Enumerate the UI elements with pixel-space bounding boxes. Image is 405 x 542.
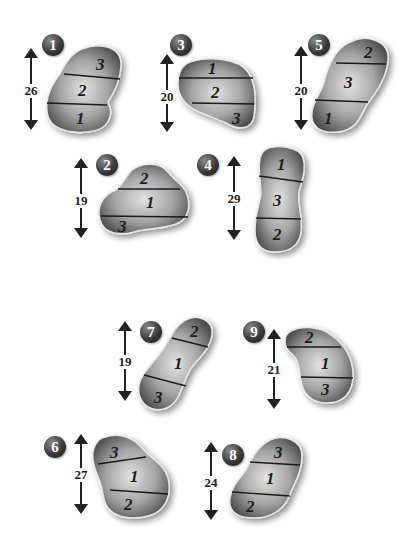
height-value: 24	[198, 476, 224, 490]
bean-shape: 2 1 3	[98, 164, 190, 236]
svg-text:2: 2	[189, 322, 199, 341]
arrow-down-icon	[24, 120, 38, 130]
bean-shape: 3 1 2	[228, 436, 304, 520]
height-value: 19	[68, 194, 94, 208]
svg-text:1: 1	[266, 469, 275, 488]
svg-text:2: 2	[77, 81, 87, 100]
height-value: 21	[261, 363, 287, 377]
height-value: 29	[221, 192, 247, 206]
bean-shape: 1 2 3	[176, 58, 256, 130]
arrow-down-icon	[160, 122, 174, 132]
svg-text:2: 2	[304, 328, 314, 347]
svg-text:1: 1	[277, 155, 286, 174]
height-arrow: 27	[74, 434, 88, 514]
svg-text:1: 1	[146, 193, 155, 212]
arrow-down-icon	[204, 510, 218, 520]
bean-shape: 2 3 1	[310, 38, 390, 138]
height-value: 19	[112, 355, 138, 369]
height-arrow: 24	[204, 442, 218, 520]
svg-text:1: 1	[324, 109, 333, 128]
svg-text:2: 2	[123, 495, 133, 514]
bean-shape: 1 3 2	[253, 146, 307, 254]
bean-shape: 2 1 3	[285, 327, 355, 407]
arrow-down-icon	[294, 120, 308, 130]
svg-text:1: 1	[321, 354, 330, 373]
bean-shape: 2 1 3	[138, 315, 214, 415]
height-arrow: 19	[74, 158, 88, 238]
figure-5: 5 20 2 3 1	[270, 0, 405, 140]
height-arrow: 21	[267, 329, 281, 409]
arrow-down-icon	[118, 391, 132, 401]
svg-text:2: 2	[245, 497, 255, 516]
bean-shape: 3 1 2	[92, 434, 170, 520]
height-value: 27	[68, 468, 94, 482]
figure-8: 8 24 3 1 2	[190, 420, 320, 535]
figure-number-badge: 3	[170, 34, 192, 56]
height-arrow: 19	[118, 321, 132, 401]
svg-text:3: 3	[95, 55, 105, 74]
figure-2: 2 19 2 1 3	[60, 140, 200, 250]
svg-text:2: 2	[139, 169, 149, 188]
figure-number-badge: 6	[44, 436, 66, 458]
height-arrow: 20	[294, 46, 308, 130]
svg-text:3: 3	[320, 380, 330, 399]
arrow-down-icon	[74, 504, 88, 514]
svg-text:3: 3	[343, 73, 353, 92]
figure-number-badge: 4	[197, 154, 219, 176]
figure-6: 6 27 3 1 2	[30, 420, 180, 535]
height-value: 26	[18, 84, 44, 98]
svg-text:1: 1	[208, 59, 217, 78]
figure-3: 3 20 1 2 3	[140, 0, 270, 140]
svg-text:1: 1	[130, 467, 139, 486]
svg-text:1: 1	[174, 354, 183, 373]
svg-text:3: 3	[153, 388, 163, 407]
bean-shape: 3 2 1	[44, 44, 124, 134]
svg-text:3: 3	[272, 191, 282, 210]
figure-1: 1 26 3 2 1	[0, 0, 140, 140]
height-arrow: 20	[160, 54, 174, 132]
svg-text:2: 2	[272, 225, 282, 244]
svg-text:3: 3	[231, 109, 241, 128]
svg-text:2: 2	[210, 83, 220, 102]
svg-text:3: 3	[273, 443, 283, 462]
figure-4: 4 29 1 3 2	[195, 140, 315, 260]
figure-7: 7 19 2 1 3	[110, 305, 240, 420]
arrow-down-icon	[227, 230, 241, 240]
svg-text:2: 2	[363, 43, 373, 62]
svg-text:3: 3	[117, 217, 127, 236]
height-arrow: 26	[24, 48, 38, 130]
arrow-down-icon	[267, 399, 281, 409]
figure-number-badge: 9	[243, 321, 265, 343]
arrow-down-icon	[74, 228, 88, 238]
figure-9: 9 21 2 1 3	[235, 305, 365, 415]
height-arrow: 29	[227, 156, 241, 240]
svg-text:3: 3	[109, 443, 119, 462]
svg-text:1: 1	[76, 109, 85, 128]
